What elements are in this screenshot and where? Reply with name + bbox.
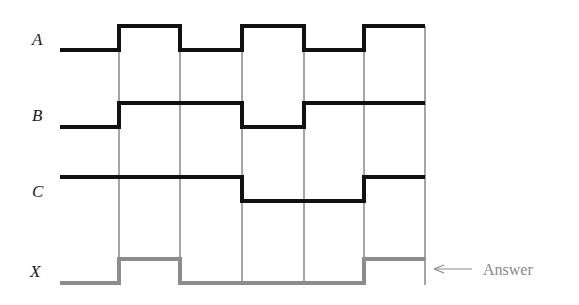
answer-label: Answer [483,261,533,278]
signal-labels: A B C X [29,30,44,281]
answer-annotation: Answer [434,261,533,278]
time-grid-lines [119,26,425,285]
signal-label-b: B [32,106,43,125]
signal-label-a: A [31,30,43,49]
waveform-b [60,103,425,127]
signal-label-c: C [32,182,44,201]
waveform-c [60,177,425,201]
waveform-a [60,26,425,50]
timing-diagram: A B C X Answer [0,0,579,305]
signal-label-x: X [29,262,41,281]
